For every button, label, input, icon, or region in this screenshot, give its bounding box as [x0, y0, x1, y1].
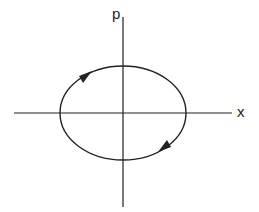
- phase-space-diagram: [0, 0, 259, 212]
- arrow-icon-lower-right: [158, 140, 171, 152]
- p-axis-label: p: [112, 6, 120, 21]
- x-axis-label: x: [237, 104, 245, 119]
- arrow-icon-upper-left: [79, 71, 92, 83]
